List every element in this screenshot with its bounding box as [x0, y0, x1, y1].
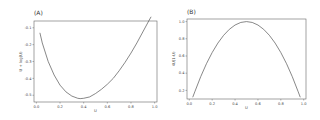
x-tick-label: 0.8 — [128, 105, 134, 109]
y-tick-label: 1.0 — [179, 20, 185, 24]
plot-a: 0.00.20.40.60.81.0-0.1-0.2-0.3-0.4-0.5UU… — [0, 0, 160, 120]
y-axis-label: 4U(1-U) — [171, 51, 176, 66]
y-tick-label: -0.4 — [24, 77, 32, 81]
data-line — [193, 22, 301, 98]
y-tick-label: -0.5 — [24, 93, 31, 97]
x-axis-label: U — [94, 108, 97, 113]
x-tick-label: 0.2 — [209, 102, 215, 106]
y-tick-label: 0.6 — [179, 54, 185, 58]
y-tick-label: -0.3 — [24, 60, 31, 64]
plot-frame — [34, 21, 157, 102]
plot-b: 0.00.20.40.60.81.01.00.80.60.40.2U4U(1-U… — [160, 0, 320, 120]
x-axis-label: U — [245, 105, 248, 110]
chart-panel-b: (B) 0.00.20.40.60.81.01.00.80.60.40.2U4U… — [160, 0, 320, 120]
y-tick-label: 0.2 — [179, 89, 185, 93]
x-tick-label: 1.0 — [301, 102, 307, 106]
chart-panel-a: (A) 0.00.20.40.60.81.0-0.1-0.2-0.3-0.4-0… — [0, 0, 160, 120]
plot-frame — [187, 19, 306, 99]
y-tick-label: -0.2 — [24, 43, 31, 47]
x-tick-label: 0.4 — [232, 102, 238, 106]
x-tick-label: 0.4 — [81, 105, 87, 109]
y-tick-label: 0.8 — [179, 37, 185, 41]
data-line — [40, 17, 151, 99]
x-tick-label: 0.0 — [34, 105, 40, 109]
x-tick-label: 0.8 — [278, 102, 284, 106]
y-tick-label: 0.4 — [179, 71, 185, 75]
x-tick-label: 1.0 — [152, 105, 158, 109]
x-tick-label: 0.6 — [255, 102, 261, 106]
x-tick-label: 0.6 — [104, 105, 110, 109]
x-tick-label: 0.0 — [186, 102, 192, 106]
x-tick-label: 0.2 — [57, 105, 63, 109]
y-axis-label: U + log(U) — [18, 51, 23, 71]
y-tick-label: -0.1 — [24, 26, 31, 30]
